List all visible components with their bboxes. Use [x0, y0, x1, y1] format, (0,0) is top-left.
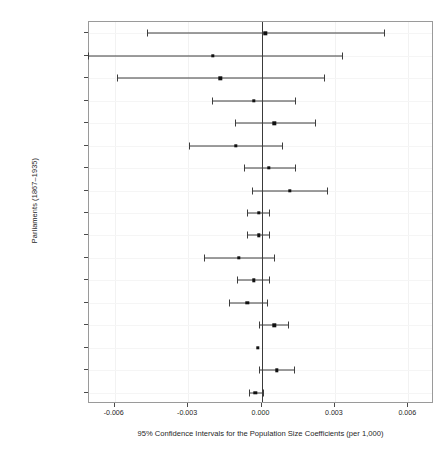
x-axis-tick-label: 0.000 [231, 409, 291, 417]
gridline-horizontal [89, 348, 432, 349]
y-axis-tick-mark [84, 190, 88, 191]
y-axis-tick-mark [84, 324, 88, 325]
plot-panel [88, 21, 433, 403]
estimate-point [288, 189, 291, 192]
ci-cap-upper [282, 142, 283, 149]
ci-cap-lower [237, 277, 238, 284]
y-axis-tick-mark [84, 234, 88, 235]
ci-cap-upper [269, 232, 270, 239]
x-axis-tick-label: -0.006 [84, 409, 144, 417]
ci-cap-lower [259, 322, 260, 329]
y-axis-tick-mark [84, 257, 88, 258]
x-axis-tick-label: 0.003 [304, 409, 364, 417]
y-axis-tick-mark [84, 100, 88, 101]
ci-cap-lower [117, 75, 118, 82]
ci-cap-lower [249, 389, 250, 396]
ci-cap-upper [384, 30, 385, 37]
ci-cap-upper [269, 210, 270, 217]
y-axis-tick-mark [84, 122, 88, 123]
estimate-point [252, 279, 255, 282]
estimate-point [257, 211, 260, 214]
ci-cap-upper [342, 52, 343, 59]
ci-cap-lower [247, 210, 248, 217]
y-axis-tick-mark [84, 55, 88, 56]
ci-cap-lower [212, 97, 213, 104]
forest-plot-figure: Parliaments (1867–1935) 1st (1867–1872)2… [0, 0, 448, 452]
y-axis-tick-mark [84, 369, 88, 370]
y-axis-title: Parliaments (1867–1935) [30, 121, 39, 281]
y-axis-tick-mark [84, 32, 88, 33]
ci-cap-upper [315, 120, 316, 127]
estimate-point [246, 301, 249, 304]
ci-cap-lower [229, 299, 230, 306]
y-axis-tick-mark [84, 212, 88, 213]
ci-cap-lower [88, 52, 89, 59]
ci-cap-lower [235, 120, 236, 127]
x-axis-tick-mark [334, 403, 335, 407]
estimate-point [211, 54, 214, 57]
x-axis-tick-label: -0.003 [157, 409, 217, 417]
ci-cap-upper [295, 97, 296, 104]
ci-cap-upper [263, 389, 264, 396]
estimate-point [273, 324, 276, 327]
estimate-point [273, 121, 276, 124]
estimate-point [252, 99, 255, 102]
ci-cap-upper [267, 299, 268, 306]
estimate-point [264, 32, 267, 35]
x-axis-tick-label: 0.006 [377, 409, 437, 417]
estimate-point [234, 144, 237, 147]
ci-cap-upper [295, 165, 296, 172]
ci-cap-lower [252, 187, 253, 194]
ci-cap-lower [147, 30, 148, 37]
ci-cap-upper [269, 277, 270, 284]
ci-cap-lower [247, 232, 248, 239]
ci-cap-lower [244, 165, 245, 172]
ci-cap-lower [259, 367, 260, 374]
estimate-point [219, 76, 222, 79]
estimate-point [237, 256, 240, 259]
y-axis-tick-mark [84, 145, 88, 146]
ci-cap-upper [288, 322, 289, 329]
ci-cap-lower [204, 254, 205, 261]
ci-cap-upper [274, 254, 275, 261]
x-axis-tick-mark [187, 403, 188, 407]
ci-cap-upper [327, 187, 328, 194]
y-axis-tick-mark [84, 77, 88, 78]
y-axis-tick-mark [84, 167, 88, 168]
confidence-interval-bar [88, 55, 342, 56]
estimate-point [267, 166, 270, 169]
ci-cap-upper [294, 367, 295, 374]
estimate-point [253, 391, 256, 394]
x-axis-tick-mark [114, 403, 115, 407]
y-axis-tick-mark [84, 392, 88, 393]
y-axis-tick-mark [84, 347, 88, 348]
y-axis-tick-mark [84, 279, 88, 280]
x-axis-title: 95% Confidence Intervals for the Populat… [88, 429, 433, 438]
ci-cap-upper [324, 75, 325, 82]
estimate-point [257, 234, 260, 237]
x-axis-tick-mark [261, 403, 262, 407]
estimate-point [256, 346, 259, 349]
y-axis-tick-mark [84, 302, 88, 303]
estimate-point [275, 369, 278, 372]
x-axis-tick-mark [407, 403, 408, 407]
ci-cap-lower [189, 142, 190, 149]
